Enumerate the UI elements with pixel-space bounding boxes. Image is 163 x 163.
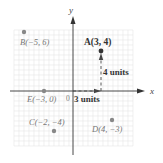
vertical-path-arrow-icon [99, 53, 103, 60]
point-E [42, 89, 46, 93]
y-axis-label: y [68, 5, 73, 15]
horizontal-path-arrow-icon [94, 89, 101, 93]
coordinate-plane: x y 0 A(3, 4) B(−5, 6) C(−2, −4) D(4, −3… [0, 0, 163, 163]
x-axis-arrow-icon [137, 89, 145, 94]
point-B [22, 30, 26, 34]
vertical-units-label: 4 units [103, 67, 129, 77]
point-D [110, 118, 114, 122]
point-B-label: B(−5, 6) [20, 37, 50, 47]
y-axis-arrow-icon [71, 16, 76, 24]
origin-label: 0 [66, 94, 70, 103]
x-axis-label: x [149, 86, 154, 96]
point-E-label: E(−3, 0) [26, 94, 57, 104]
point-A-label: A(3, 4) [84, 37, 111, 48]
point-A [99, 49, 104, 54]
point-C-label: C(−2, −4) [29, 117, 65, 127]
point-D-label: D(4, −3) [91, 124, 122, 134]
point-C [52, 129, 56, 133]
horizontal-units-label: 3 units [74, 94, 100, 104]
